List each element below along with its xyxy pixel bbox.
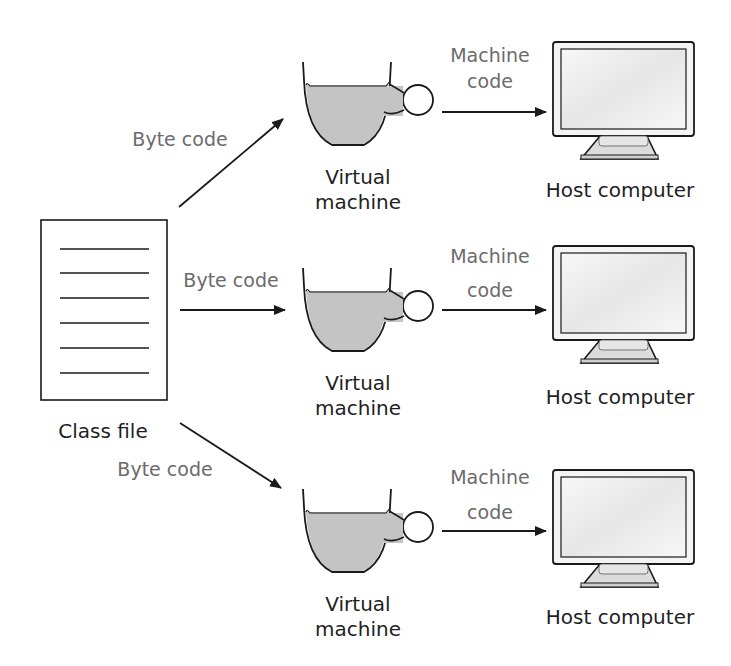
- machine-code-label-middle-line2: code: [467, 279, 513, 301]
- machine-code-label-bottom-line2: code: [467, 501, 513, 523]
- virtual-machine-cup-icon-middle: [303, 268, 433, 351]
- machine-code-label-middle-line1: Machine: [450, 245, 530, 267]
- vm-label-middle-line1: Virtual: [325, 371, 390, 395]
- host-computer-label-top: Host computer: [546, 178, 695, 202]
- vm-label-bottom-line2: machine: [315, 617, 401, 641]
- byte-code-label-middle: Byte code: [183, 269, 278, 291]
- class-file-label: Class file: [58, 419, 147, 443]
- class-file-icon: [41, 220, 167, 400]
- byte-code-label-top: Byte code: [132, 128, 227, 150]
- machine-code-label-top-line2: code: [467, 70, 513, 92]
- virtual-machine-cup-icon-top: [303, 62, 433, 145]
- vm-label-top-line2: machine: [315, 190, 401, 214]
- host-computer-label-bottom: Host computer: [546, 605, 695, 629]
- virtual-machine-cup-icon-bottom: [303, 489, 433, 572]
- byte-code-label-bottom: Byte code: [117, 458, 212, 480]
- host-computer-monitor-icon-top: [553, 42, 694, 159]
- host-computer-monitor-icon-middle: [553, 246, 694, 363]
- vm-label-middle-line2: machine: [315, 396, 401, 420]
- machine-code-label-bottom-line1: Machine: [450, 466, 530, 488]
- vm-label-bottom-line1: Virtual: [325, 592, 390, 616]
- machine-code-label-top-line1: Machine: [450, 44, 530, 66]
- jvm-diagram: Class file Byte code Byte code Byte code…: [0, 0, 731, 666]
- host-computer-monitor-icon-bottom: [553, 470, 694, 587]
- host-computer-label-middle: Host computer: [546, 385, 695, 409]
- vm-label-top-line1: Virtual: [325, 165, 390, 189]
